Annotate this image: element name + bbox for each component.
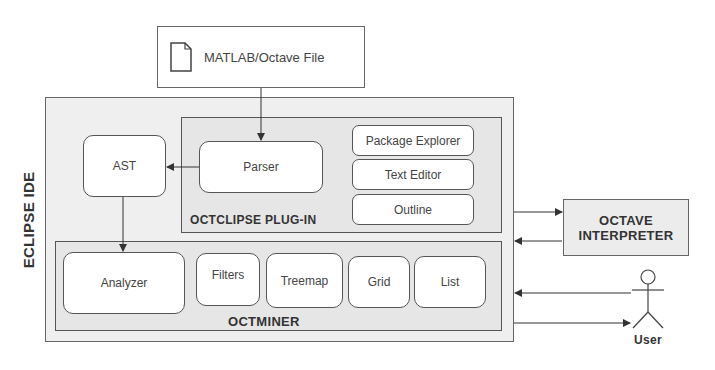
connector-arrows	[0, 0, 715, 370]
